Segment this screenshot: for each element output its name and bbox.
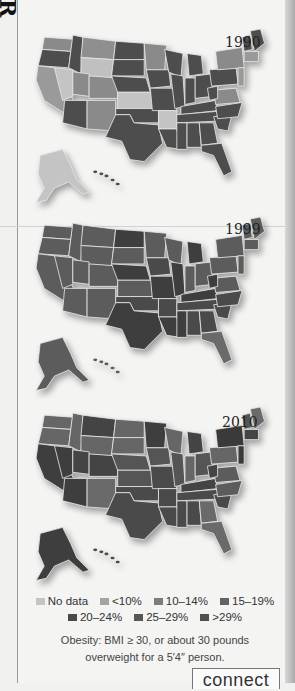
state-hawaii-island	[111, 179, 115, 182]
state-hawaii-island	[99, 551, 103, 554]
state-alaska	[36, 527, 89, 580]
caption-line-1: Obesity: BMI ≥ 30, or about 30 pounds	[24, 632, 286, 649]
state-region	[177, 123, 187, 150]
legend-label: 20–24%	[80, 609, 122, 625]
state-region	[81, 415, 116, 437]
state-region	[209, 68, 238, 86]
state-region	[209, 256, 238, 274]
state-region	[63, 478, 87, 507]
state-alaska	[36, 337, 89, 390]
state-region	[118, 280, 153, 296]
state-region	[216, 47, 245, 69]
state-region	[185, 78, 195, 105]
state-region	[187, 431, 203, 453]
state-region	[144, 43, 166, 70]
state-region	[81, 225, 116, 247]
state-hawaii-island	[116, 183, 120, 186]
state-region	[187, 123, 201, 147]
map-legend: No data <10% 10–14% 15–19% 20–24% 25–29%…	[24, 593, 286, 625]
state-hawaii-island	[104, 553, 108, 556]
state-region	[207, 464, 217, 478]
state-region	[187, 311, 201, 335]
state-region	[209, 446, 238, 464]
margin-rule	[17, 0, 18, 683]
state-region	[38, 237, 71, 255]
legend-label: No data	[48, 593, 88, 609]
state-region	[207, 274, 217, 288]
year-label-2010: 2010	[222, 414, 258, 430]
state-region	[38, 427, 71, 445]
state-region	[185, 266, 195, 293]
state-region	[244, 429, 258, 439]
state-region	[73, 260, 89, 284]
connect-tab[interactable]: connect	[192, 668, 280, 689]
year-label-1999: 1999	[225, 221, 261, 237]
legend-item-20-24: 20–24%	[68, 609, 122, 625]
state-region	[216, 235, 245, 257]
state-region	[201, 331, 232, 364]
legend-item-no-data: No data	[36, 593, 88, 609]
legend-label: 15–19%	[232, 593, 274, 609]
state-hawaii-island	[93, 548, 97, 551]
state-region	[112, 264, 151, 280]
state-region	[244, 51, 258, 61]
state-region	[177, 501, 187, 528]
state-hawaii-island	[99, 361, 103, 364]
state-region	[244, 239, 258, 249]
figure-caption: Obesity: BMI ≥ 30, or about 30 pounds ov…	[24, 632, 286, 666]
swatch-10-14	[154, 598, 163, 605]
year-label-1990: 1990	[225, 34, 261, 50]
state-region	[201, 521, 232, 554]
swatch-25-29	[134, 614, 143, 621]
state-region	[187, 501, 201, 525]
map-1990	[30, 25, 268, 215]
state-hawaii-island	[104, 363, 108, 366]
swatch-no-data	[36, 598, 45, 605]
state-region	[38, 49, 71, 67]
caption-line-2: overweight for a 5′4″ person.	[24, 649, 286, 666]
state-region	[81, 37, 116, 59]
legend-row-1: No data <10% 10–14% 15–19%	[24, 593, 286, 609]
legend-item-gt29: >29%	[200, 609, 242, 625]
state-region	[118, 92, 153, 108]
map-2010	[30, 403, 268, 593]
legend-item-lt10: <10%	[100, 593, 142, 609]
state-region	[216, 102, 243, 118]
state-region	[216, 290, 243, 306]
state-hawaii-island	[99, 173, 103, 176]
state-region	[112, 76, 151, 92]
state-region	[187, 53, 203, 75]
state-region	[114, 229, 145, 247]
state-region	[177, 311, 187, 338]
state-hawaii-island	[104, 175, 108, 178]
state-region	[199, 311, 217, 333]
state-hawaii-island	[93, 170, 97, 173]
state-region	[146, 70, 170, 88]
state-region	[114, 419, 145, 437]
state-region	[42, 415, 73, 429]
state-hawaii-island	[116, 561, 120, 564]
state-region	[144, 231, 166, 258]
state-region	[185, 456, 195, 483]
state-region	[146, 448, 170, 466]
state-region	[207, 86, 217, 100]
state-region	[112, 454, 151, 470]
state-region	[112, 248, 145, 264]
map-1999	[30, 213, 268, 403]
legend-label: <10%	[112, 593, 142, 609]
state-region	[42, 37, 73, 51]
state-region	[112, 60, 145, 76]
state-region	[158, 299, 176, 317]
state-region	[158, 111, 176, 129]
state-region	[144, 421, 166, 448]
state-hawaii-island	[116, 371, 120, 374]
state-region	[42, 225, 73, 239]
legend-row-2: 20–24% 25–29% >29%	[24, 609, 286, 625]
page-edge-shadow	[285, 0, 295, 683]
state-region	[73, 72, 89, 96]
legend-label: >29%	[212, 609, 242, 625]
state-region	[238, 256, 244, 274]
swatch-15-19	[220, 598, 229, 605]
state-hawaii-island	[111, 367, 115, 370]
state-region	[63, 288, 87, 317]
